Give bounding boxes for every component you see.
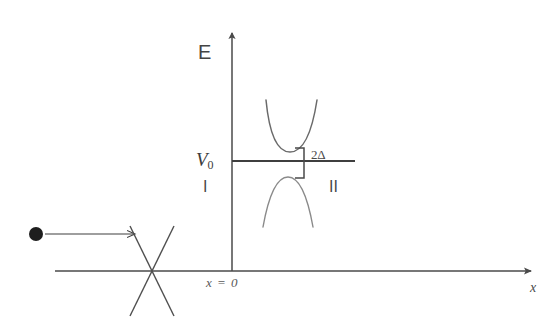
region-two-label: II <box>329 179 338 195</box>
incident-particle-dot <box>29 227 43 241</box>
potential-step-label-letter: V <box>196 149 208 170</box>
potential-step-label: V0 <box>196 150 214 169</box>
energy-gap-label: 2Δ <box>311 148 325 161</box>
valence-band-curve <box>263 177 313 227</box>
origin-label: x = 0 <box>206 276 239 289</box>
potential-step-figure: E V0 2Δ I II x = 0 x <box>0 0 554 325</box>
region-one-label: I <box>203 179 207 195</box>
position-axis-label: x <box>530 281 536 295</box>
figure-canvas <box>0 0 554 325</box>
energy-gap-bracket <box>295 148 304 178</box>
conduction-band-curve <box>266 100 317 152</box>
energy-axis-label: E <box>198 42 211 62</box>
potential-step-label-subscript: 0 <box>208 158 214 172</box>
